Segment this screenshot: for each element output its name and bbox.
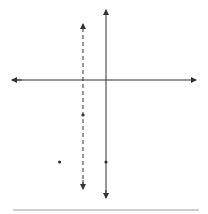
left-point [58,160,61,163]
right-point [104,160,107,163]
vertex-point [81,113,84,116]
parabola-graph [0,0,208,214]
